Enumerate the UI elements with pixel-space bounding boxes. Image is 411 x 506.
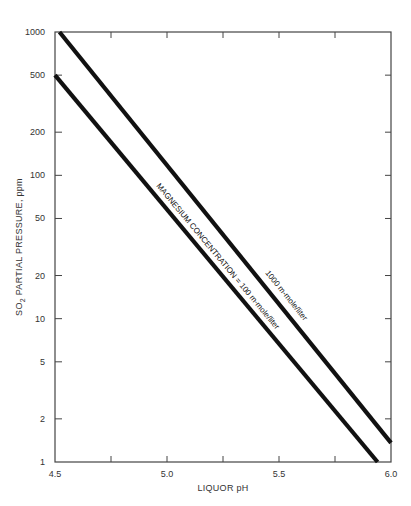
y-tick-label: 500 — [30, 70, 45, 80]
series-line-1 — [55, 75, 378, 462]
y-tick-label: 1000 — [25, 27, 45, 37]
y-tick-label: 2 — [40, 414, 45, 424]
y-tick-label: 20 — [35, 271, 45, 281]
data-lines — [55, 32, 391, 462]
chart: 4.55.05.56.01251020501002005001000 1000 … — [0, 0, 411, 506]
axis-ticks — [55, 32, 391, 462]
y-axis-title-pre: SO — [14, 302, 24, 316]
x-tick-label: 5.0 — [161, 469, 174, 479]
y-tick-label: 50 — [35, 213, 45, 223]
plot-border — [55, 32, 391, 462]
plot-frame — [55, 32, 391, 462]
x-axis-title: LIQUOR pH — [197, 483, 248, 493]
y-tick-label: 10 — [35, 314, 45, 324]
y-tick-label: 200 — [30, 127, 45, 137]
y-tick-label: 100 — [30, 170, 45, 180]
x-tick-label: 5.5 — [273, 469, 286, 479]
y-tick-label: 1 — [40, 457, 45, 467]
series-line-0 — [59, 32, 391, 443]
x-tick-label: 4.5 — [49, 469, 62, 479]
y-tick-label: 5 — [40, 357, 45, 367]
series-label-100: MAGNESIUM CONCENTRATION = 100 m-mole/lit… — [154, 182, 281, 332]
x-tick-label: 6.0 — [385, 469, 398, 479]
y-axis-title-post: PARTIAL PRESSURE, ppm — [14, 178, 24, 298]
y-axis-title: SO2 PARTIAL PRESSURE, ppm — [14, 178, 26, 316]
series-labels: 1000 m-mole/literMAGNESIUM CONCENTRATION… — [154, 182, 309, 332]
